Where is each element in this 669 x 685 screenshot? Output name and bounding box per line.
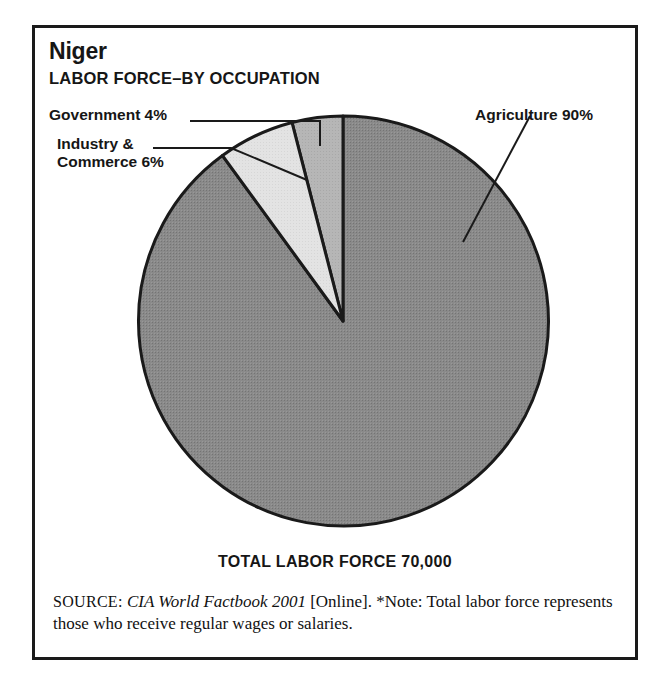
total-labor-force-caption: TOTAL LABOR FORCE 70,000 xyxy=(35,553,635,571)
source-publication-title: CIA World Factbook 2001 xyxy=(127,592,306,611)
leader-line-industry xyxy=(153,148,307,180)
source-label: SOURCE: xyxy=(53,593,123,610)
pie-label-industry-commerce: Industry & Commerce 6% xyxy=(57,135,164,172)
pie-label-agriculture: Agriculture 90% xyxy=(475,106,593,124)
leader-line-agriculture xyxy=(463,116,530,242)
leader-line-government xyxy=(190,121,320,146)
chart-frame: Niger LABOR FORCE–BY OCCUPATION xyxy=(32,25,638,660)
source-note: SOURCE: CIA World Factbook 2001 [Online]… xyxy=(53,591,619,636)
pie-label-government: Government 4% xyxy=(49,106,167,124)
